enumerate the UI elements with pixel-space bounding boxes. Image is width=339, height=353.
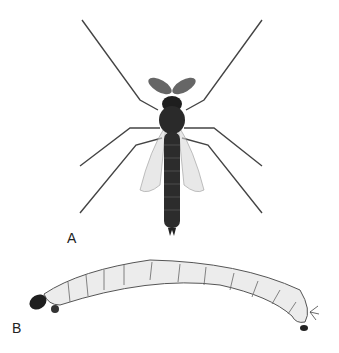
- adult-midge: [80, 20, 262, 236]
- panel-label-b: B: [12, 320, 21, 336]
- figure-illustration: [0, 0, 339, 353]
- larva: [27, 260, 319, 331]
- panel-label-a: A: [67, 230, 76, 246]
